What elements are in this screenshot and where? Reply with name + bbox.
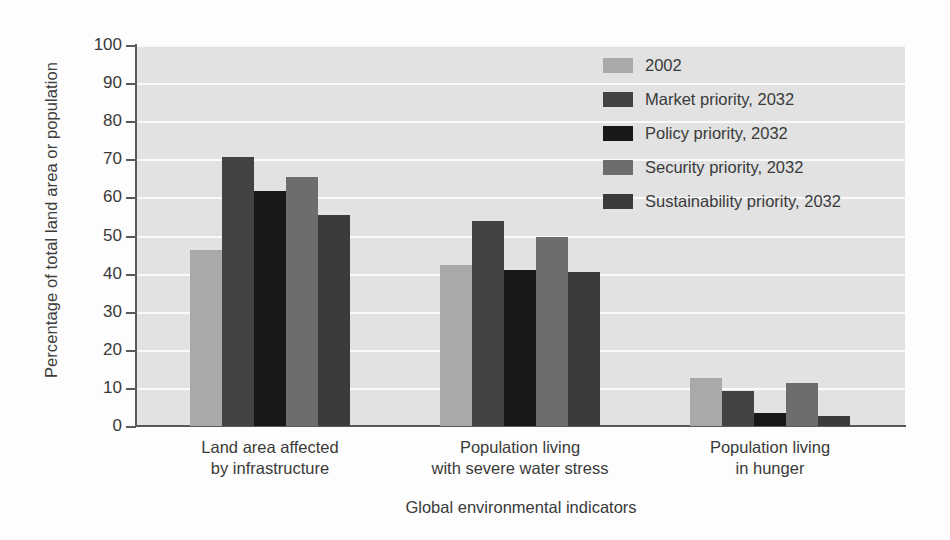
category-label-line: Population living: [390, 437, 650, 458]
y-axis-tick-label: 30: [62, 302, 122, 322]
bar: [722, 391, 754, 426]
bar: [440, 265, 472, 426]
category-label-line: by infrastructure: [140, 458, 400, 479]
bar: [286, 177, 318, 426]
legend-swatch: [603, 126, 633, 141]
bar: [568, 272, 600, 426]
x-axis-category-label: Population livingin hunger: [640, 437, 900, 479]
category-label-line: in hunger: [640, 458, 900, 479]
category-label-line: with severe water stress: [390, 458, 650, 479]
bar: [536, 237, 568, 426]
y-axis-ticks: 0102030405060708090100: [0, 0, 122, 540]
category-label-line: Land area affected: [140, 437, 400, 458]
bar: [690, 378, 722, 426]
y-axis-tick-label: 50: [62, 226, 122, 246]
y-axis-tick-label: 80: [62, 111, 122, 131]
category-label-line: Population living: [640, 437, 900, 458]
bar: [504, 270, 536, 426]
bar: [222, 157, 254, 426]
y-axis-tick-label: 10: [62, 378, 122, 398]
y-axis-tick-label: 60: [62, 187, 122, 207]
y-axis-tick: [126, 274, 136, 276]
bar: [786, 383, 818, 426]
bar: [190, 250, 222, 426]
legend-item: Security priority, 2032: [603, 150, 841, 184]
legend-swatch: [603, 58, 633, 73]
bar: [754, 413, 786, 426]
bar: [818, 416, 850, 426]
x-axis-category-label: Population livingwith severe water stres…: [390, 437, 650, 479]
y-axis-tick-label: 70: [62, 149, 122, 169]
bar: [318, 215, 350, 426]
y-axis-tick-label: 40: [62, 264, 122, 284]
legend-item: Market priority, 2032: [603, 82, 841, 116]
x-axis-title: Global environmental indicators: [137, 498, 905, 517]
legend-swatch: [603, 92, 633, 107]
bar: [472, 221, 504, 426]
legend-item: 2002: [603, 48, 841, 82]
legend-item: Sustainability priority, 2032: [603, 184, 841, 218]
legend-label: Market priority, 2032: [645, 90, 794, 109]
y-axis-tick: [126, 159, 136, 161]
legend-label: Policy priority, 2032: [645, 124, 788, 143]
y-axis-tick-label: 100: [62, 35, 122, 55]
legend-label: Security priority, 2032: [645, 158, 803, 177]
legend: 2002Market priority, 2032Policy priority…: [603, 48, 841, 218]
y-axis-tick: [126, 312, 136, 314]
y-axis-tick: [126, 350, 136, 352]
y-axis-tick: [126, 45, 136, 47]
legend-label: 2002: [645, 56, 682, 75]
y-axis-tick: [126, 83, 136, 85]
legend-swatch: [603, 194, 633, 209]
legend-swatch: [603, 160, 633, 175]
x-axis-category-label: Land area affectedby infrastructure: [140, 437, 400, 479]
y-axis-tick-label: 90: [62, 73, 122, 93]
y-axis-tick: [126, 121, 136, 123]
y-axis-tick: [126, 426, 136, 428]
legend-label: Sustainability priority, 2032: [645, 192, 841, 211]
y-axis-tick: [126, 388, 136, 390]
y-axis-tick: [126, 236, 136, 238]
bar-chart: Percentage of total land area or populat…: [0, 0, 950, 540]
bar: [254, 191, 286, 426]
y-axis-tick-label: 0: [62, 416, 122, 436]
y-axis-tick-label: 20: [62, 340, 122, 360]
legend-item: Policy priority, 2032: [603, 116, 841, 150]
y-axis-tick: [126, 197, 136, 199]
